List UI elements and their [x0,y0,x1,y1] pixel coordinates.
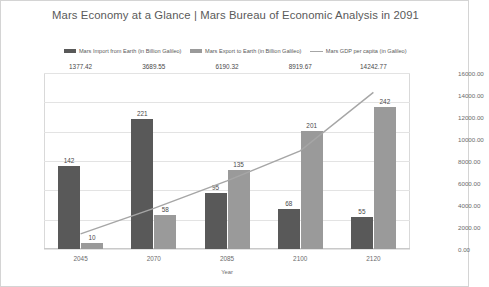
gdp-value-label: 3689.55 [142,63,165,70]
legend-item-import[interactable]: Mars Import from Earth (in Billion Galil… [64,48,181,54]
gdp-value-label: 14242.77 [360,63,387,70]
y-axis-right-tick-label: 4000.00 [458,202,489,209]
chart-title: Mars Economy at a Glance | Mars Bureau o… [29,8,442,23]
legend-label-gdp: Mars GDP per capita (in Galileo) [326,48,407,54]
y-axis-right-tick-label: 10000.00 [458,136,489,143]
x-axis-tick-label: 2085 [220,255,234,262]
gridline [44,249,410,250]
legend-label-export: Mars Export to Earth (in Billion Galileo… [205,48,301,54]
legend-item-export[interactable]: Mars Export to Earth (in Billion Galileo… [190,48,301,54]
legend-swatch-import [64,49,76,53]
chart-legend: Mars Import from Earth (in Billion Galil… [1,48,470,54]
y-axis-right-tick-label: 14000.00 [458,92,489,99]
gdp-value-label: 6190.32 [215,63,238,70]
y-axis-right-tick-label: 0.00 [458,246,489,253]
x-axis-tick-label: 2100 [293,255,307,262]
legend-item-gdp[interactable]: Mars GDP per capita (in Galileo) [310,48,406,54]
x-axis-tick-label: 2045 [73,255,87,262]
plot-area: 050100150200250300 0.002000.004000.00600… [44,73,410,249]
x-axis-tick-label: 2070 [147,255,161,262]
x-axis-title: Year [44,269,410,275]
gdp-value-label: 8919.67 [289,63,312,70]
legend-swatch-export [190,49,202,53]
legend-line-gdp [310,51,323,52]
gdp-value-label: 1377.42 [69,63,92,70]
gdp-line-series [44,73,410,249]
x-axis-tick-label: 2120 [366,255,380,262]
y-axis-right-tick-label: 12000.00 [458,114,489,121]
y-axis-right-tick-label: 16000.00 [458,70,489,77]
y-axis-right-tick-label: 8000.00 [458,158,489,165]
legend-label-import: Mars Import from Earth (in Billion Galil… [79,48,182,54]
y-axis-right-tick-label: 6000.00 [458,180,489,187]
y-axis-right-tick-label: 2000.00 [458,224,489,231]
